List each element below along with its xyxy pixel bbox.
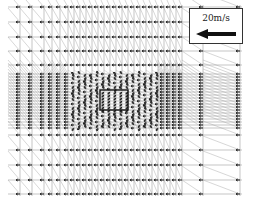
legend: 20m/s xyxy=(189,8,243,44)
left-arrow-icon xyxy=(196,29,238,39)
legend-scale-label: 20m/s xyxy=(190,13,242,23)
